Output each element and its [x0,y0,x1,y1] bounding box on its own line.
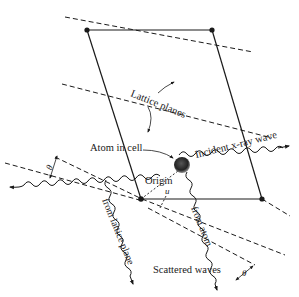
origin-label: Origin [145,175,173,186]
atom-in-cell-label: Atom in cell [90,142,143,153]
atom-icon [174,157,190,173]
pointer-lattice-planes-upper [158,82,174,93]
scattered-waves-label: Scattered waves [153,264,221,275]
pointer-lattice-planes-lower [148,107,151,132]
lattice-plane-lower-left [5,163,143,201]
lattice-plane-cell [55,157,142,199]
cell-edge-left [87,30,141,199]
lattice-plane-right-end [262,199,290,216]
theta-left-label: θ [44,163,55,171]
lattice-plane-cell-right [142,199,285,255]
lattice-point-top-right [209,27,214,32]
theta-right-label: θ [242,268,247,278]
incident-wave-label: Incident x-ray wave [194,129,278,160]
from-lattice-plane-label: from lattice plane [100,197,137,267]
theta-right: θ [236,266,253,280]
lattice-plane-top [65,17,253,52]
diagram-canvas: θ θ Lattice planes Atom in cell Incident… [0,0,299,297]
u-label: u [165,186,170,196]
lattice-point-bottom-right [259,196,264,201]
cell-edge-right [212,30,262,199]
lattice-point-top-left [84,27,89,32]
pointer-atom-in-cell [143,150,173,158]
